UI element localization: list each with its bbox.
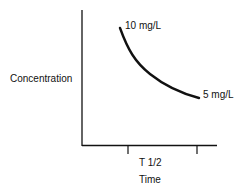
x-tick-label-half-life: T 1/2 <box>139 157 162 168</box>
end-value-label: 5 mg/L <box>203 89 234 100</box>
decay-curve <box>120 28 199 98</box>
start-value-label: 10 mg/L <box>125 20 161 31</box>
x-axis-label: Time <box>139 174 161 185</box>
y-axis-label: Concentration <box>10 73 72 84</box>
